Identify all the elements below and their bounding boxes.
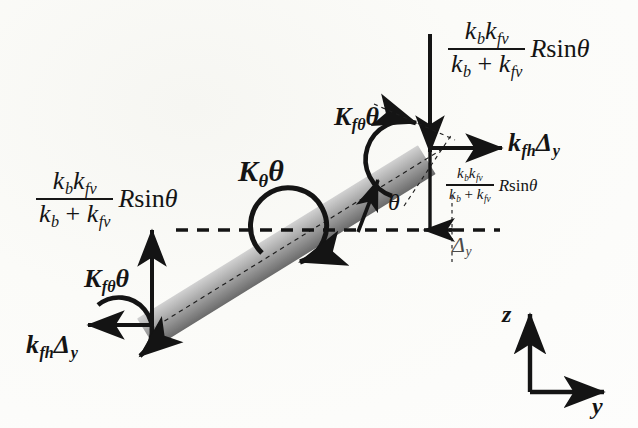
- label-displacement-delta-y: Δy: [452, 234, 471, 259]
- label-angle-theta: θ: [388, 190, 400, 214]
- label-horizontal-force-left: kfhΔy: [26, 332, 78, 361]
- label-horizontal-force-right: kfhΔy: [508, 130, 560, 159]
- label-moment-node-left: Kfθθ: [84, 266, 129, 295]
- label-vertical-force-right-small: kbkfv kb + kfv Rsinθ: [446, 166, 537, 205]
- label-vertical-force-left: kbkfv kb + kfv Rsinθ: [36, 168, 177, 231]
- beam-centerline: [150, 148, 444, 330]
- label-moment-node-right: Kfθθ: [334, 104, 379, 133]
- label-vertical-force-top-right: kbkfv kb + kfv Rsinθ: [448, 18, 589, 81]
- label-axis-y: y: [592, 394, 603, 418]
- label-axis-z: z: [502, 302, 511, 326]
- diagram-canvas: kbkfv kb + kfv Rsinθ kbkfv kb + kfv Rsin…: [0, 0, 638, 428]
- beam-element: [137, 145, 436, 347]
- label-moment-center: Kθθ: [238, 156, 284, 191]
- coordinate-axes: [530, 314, 604, 392]
